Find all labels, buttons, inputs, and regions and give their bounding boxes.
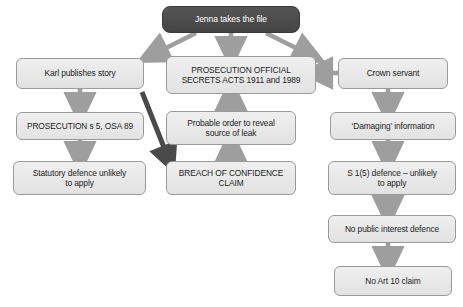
node-prosecution-osa-label: PROSECUTION OFFICIAL SECRETS ACTS 1911 a… <box>182 65 301 86</box>
node-statutory-defence[interactable]: Statutory defence unlikely to apply <box>13 161 146 195</box>
node-no-public-interest[interactable]: No public interest defence <box>328 215 456 243</box>
node-no-art10[interactable]: No Art 10 claim <box>334 266 452 296</box>
node-probable-order[interactable]: Probable order to reveal source of leak <box>166 111 296 145</box>
node-damaging-information[interactable]: ‘Damaging’ information <box>330 112 456 140</box>
node-karl-publishes[interactable]: Karl publishes story <box>16 58 144 89</box>
node-prosecution-s5[interactable]: PROSECUTION s 5, OSA 89 <box>16 112 144 140</box>
node-karl-publishes-label: Karl publishes story <box>44 68 115 79</box>
node-root-label: Jenna takes the file <box>195 14 267 25</box>
node-statutory-defence-label: Statutory defence unlikely to apply <box>33 168 126 189</box>
node-root[interactable]: Jenna takes the file <box>162 6 300 33</box>
flowchart-edges <box>0 0 463 307</box>
edge-root-to-karl-publishes <box>152 33 196 55</box>
node-no-art10-label: No Art 10 claim <box>365 276 420 287</box>
node-s15-defence-label: S 1(5) defence – unlikely to apply <box>347 168 437 189</box>
node-crown-servant[interactable]: Crown servant <box>338 58 448 89</box>
node-prosecution-osa[interactable]: PROSECUTION OFFICIAL SECRETS ACTS 1911 a… <box>166 56 316 94</box>
node-breach-confidence[interactable]: BREACH OF CONFIDENCE CLAIM <box>166 161 296 195</box>
node-probable-order-label: Probable order to reveal source of leak <box>187 118 274 139</box>
flowchart-canvas: Jenna takes the file Karl publishes stor… <box>0 0 463 307</box>
node-prosecution-s5-label: PROSECUTION s 5, OSA 89 <box>27 121 133 132</box>
node-crown-servant-label: Crown servant <box>367 68 420 79</box>
node-s15-defence[interactable]: S 1(5) defence – unlikely to apply <box>328 161 456 195</box>
node-no-public-interest-label: No public interest defence <box>345 224 439 235</box>
edge-karl-publishes-to-breach-confidence <box>142 92 169 160</box>
edge-root-to-crown-servant <box>266 33 310 55</box>
node-damaging-information-label: ‘Damaging’ information <box>351 121 434 132</box>
node-breach-confidence-label: BREACH OF CONFIDENCE CLAIM <box>179 168 284 189</box>
